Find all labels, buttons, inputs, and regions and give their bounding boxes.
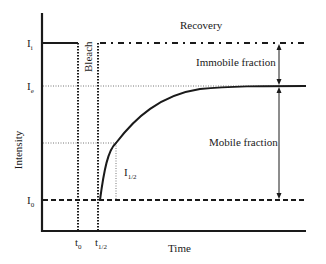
arrowhead-up-icon xyxy=(277,87,282,93)
arrowhead-down-icon xyxy=(277,79,282,85)
mobile-fraction-label: Mobile fraction xyxy=(209,136,278,148)
tick-label-t0: t0 xyxy=(75,236,82,251)
tick-label-thalf: t1/2 xyxy=(95,236,108,251)
frap-diagram: Ii Ie I0 t0 t1/2 Intensity Time Recovery… xyxy=(0,0,326,264)
tick-label-ie: Ie xyxy=(27,80,34,95)
tick-label-ii: Ii xyxy=(27,37,33,52)
arrowhead-down-icon xyxy=(277,193,282,199)
half-intensity-label: I1/2 xyxy=(124,166,137,181)
recovery-label: Recovery xyxy=(180,19,223,31)
tick-label-i0: I0 xyxy=(27,194,35,209)
immobile-fraction-label: Immobile fraction xyxy=(196,56,276,68)
arrowhead-up-icon xyxy=(277,44,282,50)
y-axis-title: Intensity xyxy=(12,130,24,169)
x-axis-title: Time xyxy=(168,242,191,254)
bleach-label: Bleach xyxy=(82,41,94,72)
